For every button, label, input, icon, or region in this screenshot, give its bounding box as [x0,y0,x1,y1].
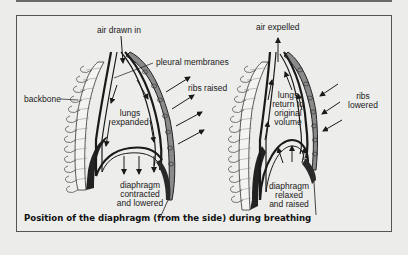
label-lowered: lowered [348,100,378,110]
label-and-raised: and raised [269,199,309,209]
label-volume: volume [274,117,302,127]
right-panel: air expelled ribs lowered lungs return t… [228,22,378,215]
label-pleural-membranes: pleural membranes [156,57,229,67]
left-panel: air drawn in pleural membranes ribs rais… [24,25,229,218]
label-ribs-raised: ribs raised [188,83,227,93]
label-air-expelled: air expelled [256,22,300,32]
figure-caption: Position of the diaphragm (from the side… [24,213,311,223]
label-air-drawn-in: air drawn in [97,25,141,35]
label-backbone: backbone [24,94,61,104]
label-and-lowered: and lowered [117,198,164,208]
label-expanded: expanded [111,117,149,127]
